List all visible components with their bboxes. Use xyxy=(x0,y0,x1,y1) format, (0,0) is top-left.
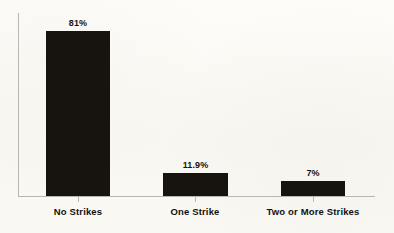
plot-area: 81% 11.9% 7% xyxy=(0,0,394,196)
bar-group-one-strike: 11.9% xyxy=(163,173,228,196)
bar-value-label: 11.9% xyxy=(183,160,209,170)
bar-value-label: 7% xyxy=(306,168,319,178)
x-axis-tick xyxy=(313,197,314,202)
bar-group-two-or-more-strikes: 7% xyxy=(281,181,345,196)
bar-no-strikes[interactable] xyxy=(46,31,110,196)
x-axis-category-label-no-strikes: No Strikes xyxy=(54,206,103,217)
bar-value-label: 81% xyxy=(69,18,87,28)
x-axis-category-label-two-or-more-strikes: Two or More Strikes xyxy=(267,206,360,217)
x-axis-line xyxy=(18,196,375,197)
x-axis-tick xyxy=(78,197,79,202)
bar-group-no-strikes: 81% xyxy=(46,31,110,196)
bar-chart: 81% 11.9% 7% No Strikes One Strike Two o… xyxy=(0,0,394,233)
bar-one-strike[interactable] xyxy=(163,173,228,196)
bar-two-or-more-strikes[interactable] xyxy=(281,181,345,196)
x-axis-tick xyxy=(195,197,196,202)
x-axis-category-label-one-strike: One Strike xyxy=(170,206,219,217)
